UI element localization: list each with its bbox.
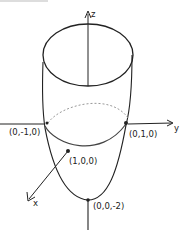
point-label-vertex: (0,0,-2) [93, 202, 124, 211]
y-axis [0, 120, 173, 126]
equator-front [45, 124, 126, 146]
equator-back-dashed [48, 103, 128, 123]
point-label-pos-y: (0,1,0) [129, 130, 157, 139]
point-label-neg-y: (0,-1,0) [9, 128, 40, 137]
x-axis-label: x [33, 199, 38, 208]
paraboloid-diagram [0, 0, 187, 232]
point-vertex [86, 198, 90, 202]
point-neg-y [46, 122, 49, 125]
point-label-pos-x: (1,0,0) [69, 157, 97, 166]
y-axis-label: y [174, 124, 179, 133]
x-axis [27, 151, 68, 201]
point-pos-x [66, 149, 70, 153]
z-axis [85, 11, 91, 230]
z-axis-label: z [91, 10, 95, 19]
point-pos-y [124, 121, 128, 125]
left-wall [43, 62, 45, 128]
